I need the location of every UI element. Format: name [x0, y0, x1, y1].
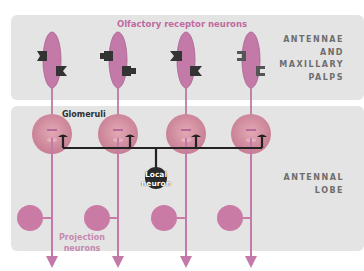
neuron-column-4: [217, 32, 271, 268]
projection-label-line: Projection: [53, 232, 111, 243]
region-label-line: AND: [279, 47, 344, 60]
projection-neuron-soma-icon: [17, 205, 43, 231]
region-label-line: LOBE: [284, 185, 345, 198]
neuron-column-3: [151, 32, 206, 268]
glomeruli-label: Glomeruli: [62, 110, 106, 119]
local-neuron-label: Local neuron: [135, 170, 177, 188]
region-label-line: MAXILLARY: [279, 59, 344, 72]
title-olfactory-receptor-neurons: Olfactory receptor neurons: [0, 19, 364, 29]
region-label-antennae: ANTENNAE AND MAXILLARY PALPS: [279, 34, 344, 84]
local-neuron-label-line: Local: [135, 170, 177, 179]
receptor-knob-icon: [122, 66, 136, 76]
receptor-flag-icon: [56, 66, 67, 76]
receptor-bracket-icon: [256, 66, 265, 76]
region-label-line: ANTENNAL: [284, 172, 345, 185]
projection-neurons-label: Projection neurons: [53, 232, 111, 254]
receptor-bracket-icon: [237, 51, 246, 61]
local-neuron-label-line: neuron: [135, 179, 177, 188]
receptor-notched-icon: [37, 51, 47, 61]
receptor-block-icon: [100, 51, 113, 61]
projection-label-line: neurons: [53, 243, 111, 254]
region-label-antennal-lobe: ANTENNAL LOBE: [284, 172, 345, 197]
region-label-line: ANTENNAE: [279, 34, 344, 47]
region-label-line: PALPS: [279, 72, 344, 85]
local-neuron-network: [63, 137, 262, 170]
